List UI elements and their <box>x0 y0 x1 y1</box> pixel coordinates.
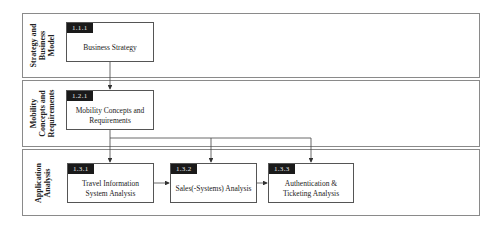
box-mobility-concepts: 1.2.1 Mobility Concepts and Requirements <box>66 90 154 130</box>
box-id: 1.1.1 <box>67 23 93 33</box>
box-sales-systems: 1.3.2 Sales(-Systems) Analysis <box>170 163 257 203</box>
box-id: 1.3.2 <box>171 164 197 174</box>
box-text: Mobility Concepts and Requirements <box>67 102 153 129</box>
box-text: Travel Information System Analysis <box>68 175 153 202</box>
box-authentication-ticketing: 1.3.3 Authentication & Ticketing Analysi… <box>268 163 354 203</box>
box-id: 1.3.3 <box>269 164 295 174</box>
box-text: Business Strategy <box>67 34 153 61</box>
box-text: Sales(-Systems) Analysis <box>171 175 256 202</box>
box-id: 1.3.1 <box>68 164 94 174</box>
box-travel-information: 1.3.1 Travel Information System Analysis <box>67 163 154 203</box>
box-text: Authentication & Ticketing Analysis <box>269 175 353 202</box>
box-business-strategy: 1.1.1 Business Strategy <box>66 22 154 62</box>
box-id: 1.2.1 <box>67 91 93 101</box>
